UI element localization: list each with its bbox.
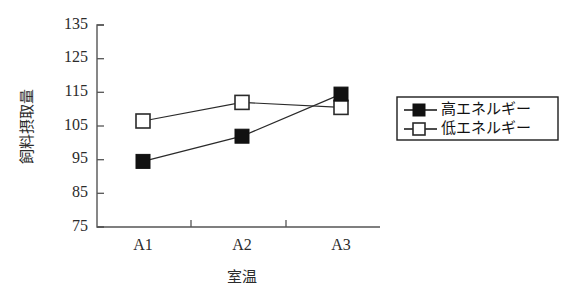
legend-marker-open-square [413, 123, 425, 135]
x-category-label-a2: A2 [232, 236, 252, 253]
data-point-low-energy-a3 [334, 100, 348, 114]
y-tick-label-95: 95 [72, 149, 88, 166]
feed-intake-line-chart: 75 85 95 105 115 125 135 A1 A2 A3 室温 飼料摂… [0, 0, 578, 300]
legend-label-high-energy: 高エネルギー [441, 100, 531, 117]
x-category-label-a3: A3 [331, 236, 351, 253]
data-point-high-energy-a1 [136, 154, 150, 168]
y-tick-label-125: 125 [64, 48, 88, 65]
y-tick-label-85: 85 [72, 183, 88, 200]
y-axis-title: 飼料摂取量 [18, 89, 35, 164]
legend-label-low-energy: 低エネルギー [441, 119, 531, 136]
data-point-high-energy-a3 [334, 87, 348, 101]
x-category-label-a1: A1 [133, 236, 153, 253]
y-tick-label-105: 105 [64, 116, 88, 133]
y-tick-label-75: 75 [72, 217, 88, 234]
legend-marker-filled-square [413, 104, 425, 116]
data-point-high-energy-a2 [235, 129, 249, 143]
x-axis-title: 室温 [227, 268, 257, 285]
data-point-low-energy-a1 [136, 114, 150, 128]
y-tick-label-115: 115 [65, 82, 88, 99]
chart-figure: 75 85 95 105 115 125 135 A1 A2 A3 室温 飼料摂… [0, 0, 578, 300]
y-tick-label-135: 135 [64, 15, 88, 32]
chart-legend: 高エネルギー 低エネルギー [397, 97, 558, 140]
data-point-low-energy-a2 [235, 95, 249, 109]
